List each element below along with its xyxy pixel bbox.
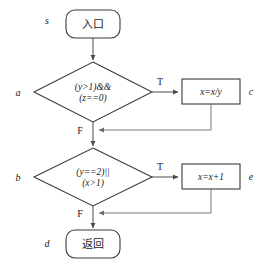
process-e-label: x=x+1	[197, 172, 224, 182]
process-c-tag: c	[249, 86, 254, 97]
decision-a-false-label: F	[77, 125, 83, 136]
process-e-tag: e	[249, 171, 254, 182]
decision-a-true-label: T	[157, 76, 163, 87]
exit-node-label: 返回	[82, 238, 104, 251]
entry-node-tag: s	[45, 15, 49, 26]
decision-b-node[interactable]: (y==2)|| (x>1)	[34, 148, 152, 206]
decision-b-true-label: T	[157, 161, 163, 172]
decision-b-line2: (x>1)	[82, 178, 104, 189]
process-c-label: x=x/y	[199, 87, 222, 97]
decision-a-tag: a	[16, 87, 21, 98]
flowchart-page: 入口 s (y>1)&& (z==0) a T x=x/y c F (y==2)…	[0, 0, 266, 274]
flowchart-diagram: 入口 s (y>1)&& (z==0) a T x=x/y c F (y==2)…	[0, 0, 266, 274]
decision-b-shape	[34, 148, 152, 206]
process-e-node[interactable]: x=x+1	[182, 164, 240, 189]
decision-b-line1: (y==2)||	[76, 167, 109, 178]
exit-node[interactable]: 返回	[66, 230, 120, 258]
entry-node-label: 入口	[82, 18, 104, 31]
decision-a-line1: (y>1)&&	[75, 82, 112, 93]
decision-b-false-label: F	[77, 208, 83, 219]
decision-b-tag: b	[16, 172, 21, 183]
decision-a-node[interactable]: (y>1)&& (z==0)	[34, 62, 152, 122]
process-c-node[interactable]: x=x/y	[182, 79, 240, 104]
exit-node-tag: d	[45, 238, 51, 249]
entry-node[interactable]: 入口	[66, 10, 120, 38]
decision-a-shape	[34, 62, 152, 122]
decision-a-line2: (z==0)	[79, 93, 107, 104]
